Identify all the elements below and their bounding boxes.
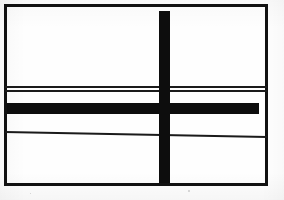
figure-canvas (0, 0, 284, 200)
vertical-bar (159, 11, 170, 183)
upper-rule-2-line (5, 90, 267, 92)
horizontal-bar (7, 103, 259, 114)
outer-frame (4, 4, 268, 186)
scan-speck-1 (188, 190, 190, 192)
upper-rule-1-line (5, 86, 267, 88)
scan-speck-2 (30, 193, 31, 194)
